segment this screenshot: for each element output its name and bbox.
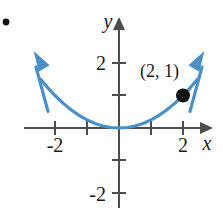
data-point-2-1[interactable] (176, 89, 190, 103)
curve-left-arrowhead-icon (29, 51, 52, 74)
curve-right-arrowhead-icon (186, 51, 209, 74)
x-axis-label-neg2: -2 (47, 134, 64, 156)
x-axis-name: x (202, 132, 212, 154)
y-axis-label-pos2: 2 (96, 52, 106, 74)
curve-left-tail (36, 67, 48, 111)
y-axis-arrowhead-icon (113, 17, 125, 30)
y-axis-name: y (102, 10, 113, 33)
graph-canvas: -2 2 2 -2 x y (2, 1) (0, 0, 223, 224)
point-annotation-label: (2, 1) (140, 61, 179, 82)
bullet-marker-icon (3, 19, 10, 26)
y-axis-label-neg2: -2 (89, 183, 106, 205)
parabola-graph-figure: -2 2 2 -2 x y (2, 1) (0, 0, 223, 224)
curve-right-tail (190, 67, 202, 111)
x-axis-label-pos2: 2 (178, 134, 188, 156)
